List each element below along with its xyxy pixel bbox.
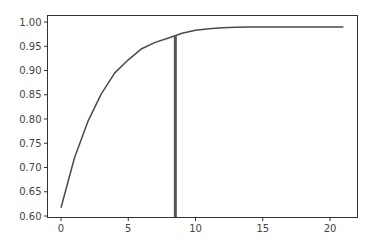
y-tick-label: 0.85: [19, 89, 41, 100]
y-tick-label: 0.65: [19, 186, 41, 197]
series-line-0: [61, 27, 343, 208]
y-tick-label: 0.95: [19, 41, 41, 52]
x-tick-label: 15: [256, 223, 269, 234]
x-tick-label: 5: [125, 223, 131, 234]
x-tick-label: 10: [189, 223, 202, 234]
x-axis: 05101520: [58, 218, 337, 234]
y-axis: 0.600.650.700.750.800.850.900.951.00: [19, 17, 47, 222]
axes-frame: [48, 16, 358, 218]
line-chart: 05101520 0.600.650.700.750.800.850.900.9…: [0, 0, 375, 247]
y-tick-label: 0.70: [19, 162, 41, 173]
y-tick-label: 0.60: [19, 211, 41, 222]
x-tick-label: 20: [324, 223, 337, 234]
plot-area: [61, 27, 343, 218]
y-tick-label: 0.90: [19, 65, 41, 76]
y-tick-label: 0.80: [19, 114, 41, 125]
y-tick-label: 1.00: [19, 17, 41, 28]
y-tick-label: 0.75: [19, 138, 41, 149]
x-tick-label: 0: [58, 223, 64, 234]
